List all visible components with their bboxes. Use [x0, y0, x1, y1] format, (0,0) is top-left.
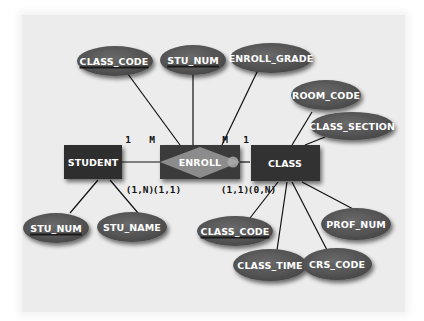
attr-crs-code[interactable]: CRS_CODE — [309, 259, 365, 270]
entity-class[interactable]: CLASS — [268, 158, 302, 169]
connectivity-student: 1 — [125, 134, 131, 145]
connector-bubble — [228, 157, 239, 168]
cardinality-student: (1,N) — [126, 184, 155, 195]
cardinality-enroll-right: (1,1) — [221, 184, 250, 195]
attr-enroll-class-code[interactable]: CLASS_CODE — [80, 56, 149, 67]
attr-room-code[interactable]: ROOM_CODE — [292, 90, 360, 101]
connectivity-class: 1 — [243, 134, 249, 145]
cardinality-class: (0,N) — [248, 184, 277, 195]
attr-class-code[interactable]: CLASS_CODE — [201, 226, 270, 237]
attr-stu-num[interactable]: STU_NUM — [30, 223, 82, 234]
cardinality-enroll-left: (1,1) — [153, 184, 182, 195]
relationship-enroll[interactable]: ENROLL — [179, 157, 222, 168]
attr-class-time[interactable]: CLASS_TIME — [237, 260, 302, 271]
attr-prof-num[interactable]: PROF_NUM — [326, 219, 386, 230]
attr-enroll-stu-num[interactable]: STU_NUM — [167, 55, 219, 66]
attr-enroll-grade[interactable]: ENROLL_GRADE — [229, 53, 314, 64]
entity-student[interactable]: STUDENT — [68, 157, 119, 168]
attr-class-section[interactable]: CLASS_SECTION — [309, 121, 395, 132]
connectivity-enroll-right: M — [222, 134, 228, 145]
attr-stu-name[interactable]: STU_NAME — [103, 222, 161, 233]
connectivity-enroll-left: M — [149, 134, 155, 145]
